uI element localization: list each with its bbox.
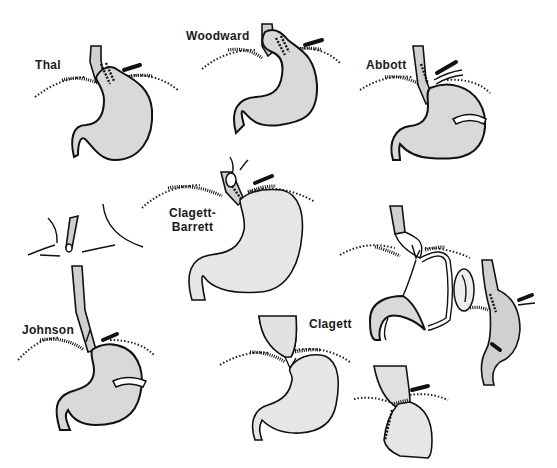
gastric-tube-illustration bbox=[340, 206, 474, 340]
junction-closeup-illustration bbox=[354, 366, 448, 458]
label-clagett-barrett-line1: Clagett- bbox=[165, 206, 220, 220]
label-thal: Thal bbox=[35, 58, 61, 72]
label-abbott: Abbott bbox=[366, 58, 406, 72]
label-clagett-barrett: Clagett- Barrett bbox=[165, 206, 220, 234]
label-woodward: Woodward bbox=[186, 29, 250, 43]
johnson-illustration bbox=[18, 204, 155, 430]
label-johnson: Johnson bbox=[22, 323, 74, 337]
illustrations bbox=[0, 0, 557, 468]
clagett-illustration bbox=[220, 316, 350, 440]
label-clagett: Clagett bbox=[309, 317, 352, 331]
label-clagett-barrett-line2: Barrett bbox=[165, 220, 220, 234]
surgical-procedures-figure: Thal Woodward Abbott Clagett- Barrett Jo… bbox=[0, 0, 557, 468]
esophageal-segment-illustration bbox=[470, 260, 535, 385]
